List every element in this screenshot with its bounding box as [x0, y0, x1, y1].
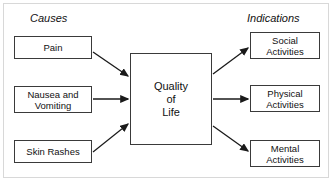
edge-skin-to-quality-of-life [93, 124, 128, 152]
node-quality-of-life-label: Quality of Life [154, 80, 188, 119]
node-physical-activities-label: Physical Activities [266, 88, 303, 110]
edge-quality-of-life-to-social [213, 48, 248, 74]
node-skin-rashes[interactable]: Skin Rashes [14, 140, 92, 163]
node-skin-rashes-label: Skin Rashes [26, 146, 79, 157]
node-nausea-and-vomiting-label: Nausea and Vomiting [27, 89, 78, 111]
diagram-canvas: Causes Indications Pain Nausea and Vomit… [0, 0, 333, 182]
node-pain[interactable]: Pain [14, 36, 92, 59]
edge-quality-of-life-to-mental [213, 126, 248, 151]
node-nausea-and-vomiting[interactable]: Nausea and Vomiting [14, 86, 92, 113]
node-pain-label: Pain [43, 42, 62, 53]
node-physical-activities[interactable]: Physical Activities [250, 85, 320, 112]
node-social-activities-label: Social Activities [266, 35, 303, 57]
node-mental-activities-label: Mental Activities [266, 143, 303, 165]
column-header-indications: Indications [247, 12, 300, 24]
node-quality-of-life[interactable]: Quality of Life [130, 53, 212, 145]
node-mental-activities[interactable]: Mental Activities [250, 140, 320, 167]
edge-pain-to-quality-of-life [93, 52, 128, 76]
column-header-causes: Causes [30, 12, 67, 24]
node-social-activities[interactable]: Social Activities [250, 32, 320, 59]
